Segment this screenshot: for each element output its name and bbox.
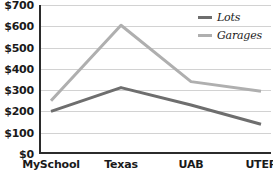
legend-entry[interactable]: Garages <box>198 29 262 41</box>
y-tick-label: $200 <box>4 105 34 118</box>
y-tick-label: $300 <box>4 84 34 97</box>
x-tick-label: MySchool <box>22 158 80 171</box>
y-tick-label: $400 <box>4 62 34 75</box>
legend-swatch-icon <box>198 16 212 19</box>
x-axis: MySchoolTexasUABUTEP <box>39 158 271 178</box>
series-line-lots <box>51 88 261 125</box>
x-tick-label: UTEP <box>245 158 273 171</box>
x-tick-label: UAB <box>179 158 204 171</box>
chart-legend: LotsGarages <box>198 11 262 41</box>
legend-swatch-icon <box>198 34 212 37</box>
y-tick-label: $500 <box>4 41 34 54</box>
legend-label: Garages <box>217 29 262 42</box>
legend-entry[interactable]: Lots <box>198 11 262 23</box>
y-tick-label: $600 <box>4 20 34 33</box>
y-tick-label: $700 <box>4 0 34 12</box>
y-axis: $0$100$200$300$400$500$600$700 <box>0 0 37 180</box>
y-tick-label: $100 <box>4 126 34 139</box>
line-chart: $0$100$200$300$400$500$600$700 MySchoolT… <box>0 0 273 180</box>
legend-label: Lots <box>217 11 240 24</box>
x-tick-label: Texas <box>104 158 138 171</box>
